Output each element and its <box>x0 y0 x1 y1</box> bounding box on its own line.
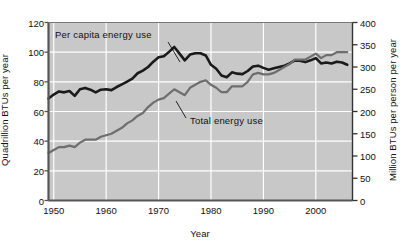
y-tick-label-left: 0 <box>18 195 44 206</box>
y-tick-label-left: 100 <box>18 47 44 58</box>
y-tick-label-right: 150 <box>360 128 388 139</box>
y-tick-label-left: 120 <box>18 17 44 28</box>
y-tick-label-right: 50 <box>360 173 388 184</box>
x-tick-label: 1990 <box>253 205 274 216</box>
y-tick-label-right: 100 <box>360 151 388 162</box>
series-annotation-per-capita-energy-use: Per capita energy use <box>55 29 152 40</box>
y-tick-label-left: 40 <box>18 136 44 147</box>
y-axis-left-title: Quadrillion BTUs per year <box>0 54 10 166</box>
y-tick-label-left: 60 <box>18 106 44 117</box>
x-tick-label: 1950 <box>43 205 64 216</box>
x-tick-label: 1970 <box>148 205 169 216</box>
y-tick-label-left: 20 <box>18 165 44 176</box>
x-tick-label: 1960 <box>96 205 117 216</box>
y-tick-label-right: 250 <box>360 84 388 95</box>
y-tick-label-right: 0 <box>360 195 388 206</box>
x-axis-title: Year <box>190 228 210 239</box>
y-tick-label-right: 300 <box>360 62 388 73</box>
x-tick-label: 1980 <box>200 205 221 216</box>
y-tick-label-left: 80 <box>18 76 44 87</box>
y-axis-right-title: Million BTUs per person per year <box>387 39 398 181</box>
y-tick-label-right: 350 <box>360 39 388 50</box>
energy-use-chart: Quadrillion BTUs per year Million BTUs p… <box>0 0 402 241</box>
series-annotation-total-energy-use: Total energy use <box>190 115 263 126</box>
y-tick-label-right: 200 <box>360 106 388 117</box>
x-tick-label: 2000 <box>305 205 326 216</box>
y-tick-label-right: 400 <box>360 17 388 28</box>
